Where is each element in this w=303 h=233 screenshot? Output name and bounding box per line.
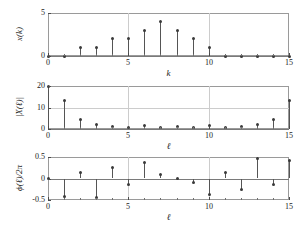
x-axis-minor-tick	[241, 198, 242, 200]
x-axis-minor-tick	[273, 198, 274, 200]
x-axis-minor-tick	[177, 54, 178, 56]
x-axis-major-tick	[128, 126, 129, 129]
x-axis-minor-tick	[64, 54, 65, 56]
stem-line	[144, 30, 145, 56]
stem-marker	[143, 29, 146, 32]
x-axis-minor-tick	[257, 198, 258, 200]
y-axis-tick-label: 20	[14, 81, 45, 90]
x-axis-major-tick	[289, 53, 290, 56]
x-axis-minor-tick	[257, 54, 258, 56]
y-axis-tick-label: 0	[14, 51, 45, 60]
panel3-x-axis-label: ℓ	[149, 212, 189, 222]
y-axis-major-tick	[48, 13, 51, 14]
baseline-zero	[48, 56, 289, 57]
x-axis-minor-tick	[112, 54, 113, 56]
y-axis-tick-label: -0.5	[14, 195, 45, 204]
x-axis-minor-tick	[112, 198, 113, 200]
x-axis-minor-tick	[225, 127, 226, 129]
x-axis-minor-tick	[177, 198, 178, 200]
x-axis-major-tick	[209, 197, 210, 200]
stem-marker	[79, 46, 82, 49]
x-axis-minor-tick	[193, 54, 194, 56]
stem-marker	[95, 123, 98, 126]
stem-marker	[272, 118, 275, 121]
x-axis-minor-tick	[273, 54, 274, 56]
x-axis-tick-label: 10	[199, 131, 219, 140]
x-axis-major-tick	[289, 197, 290, 200]
x-axis-tick-label: 10	[199, 202, 219, 211]
x-axis-major-tick	[209, 126, 210, 129]
x-axis-minor-tick	[80, 198, 81, 200]
x-axis-minor-tick	[225, 54, 226, 56]
x-axis-minor-tick	[177, 127, 178, 129]
x-axis-tick-label: 10	[199, 58, 219, 67]
stem-marker	[143, 161, 146, 164]
x-axis-minor-tick	[80, 54, 81, 56]
baseline-zero	[48, 179, 289, 180]
stem-marker	[127, 183, 130, 186]
stem-marker	[79, 118, 82, 121]
x-axis-minor-tick	[160, 198, 161, 200]
x-axis-tick-label: 15	[279, 202, 299, 211]
y-axis-major-tick	[48, 56, 51, 57]
baseline-zero	[48, 129, 289, 130]
x-axis-tick-label: 15	[279, 131, 299, 140]
x-axis-minor-tick	[193, 198, 194, 200]
x-axis-minor-tick	[273, 127, 274, 129]
y-axis-major-tick	[48, 179, 51, 180]
stem-marker	[208, 46, 211, 49]
y-axis-major-tick	[48, 129, 51, 130]
stem-line	[112, 167, 113, 178]
y-axis-tick-label: 0.5	[14, 152, 45, 161]
x-axis-tick-label: 5	[118, 131, 138, 140]
panel1-x-axis-label: k	[149, 68, 189, 78]
stem-line	[289, 160, 290, 178]
y-axis-major-tick	[48, 108, 51, 109]
x-axis-minor-tick	[96, 54, 97, 56]
x-axis-major-tick	[209, 53, 210, 56]
stem-marker	[176, 177, 179, 180]
x-axis-minor-tick	[64, 198, 65, 200]
stem-line	[289, 101, 290, 129]
stem-marker	[159, 173, 162, 176]
stem-marker	[288, 99, 291, 102]
panel2-x-axis-label: ℓ	[149, 141, 189, 151]
stem-marker	[192, 181, 195, 184]
stem-marker	[95, 46, 98, 49]
stem-marker	[111, 166, 114, 169]
x-axis-minor-tick	[241, 54, 242, 56]
panel1-axes-frame	[48, 13, 289, 56]
stem-line	[64, 179, 65, 197]
x-axis-tick-label: 15	[279, 58, 299, 67]
stem-line	[257, 159, 258, 179]
panel1-y-axis-label: x(k)	[14, 15, 24, 53]
stem-marker	[176, 29, 179, 32]
x-axis-major-tick	[128, 53, 129, 56]
y-axis-tick-label: 0	[14, 124, 45, 133]
x-axis-tick-label: 5	[118, 58, 138, 67]
stem-line	[177, 30, 178, 56]
x-axis-minor-tick	[144, 198, 145, 200]
x-axis-minor-tick	[160, 127, 161, 129]
stem-marker	[288, 159, 291, 162]
x-axis-major-tick	[128, 197, 129, 200]
x-axis-minor-tick	[64, 127, 65, 129]
y-axis-tick-label: 5	[14, 8, 45, 17]
x-axis-major-tick	[289, 126, 290, 129]
y-axis-major-tick	[48, 86, 51, 87]
stem-line	[96, 179, 97, 198]
x-axis-minor-tick	[80, 127, 81, 129]
y-axis-tick-label: 0	[14, 174, 45, 183]
stem-line	[160, 22, 161, 56]
stem-line	[144, 162, 145, 178]
x-axis-minor-tick	[241, 127, 242, 129]
gridline-horizontal	[48, 108, 289, 109]
x-axis-minor-tick	[144, 54, 145, 56]
x-axis-minor-tick	[193, 127, 194, 129]
x-axis-minor-tick	[96, 198, 97, 200]
x-axis-minor-tick	[112, 127, 113, 129]
x-axis-minor-tick	[225, 198, 226, 200]
stem-line	[64, 101, 65, 129]
x-axis-minor-tick	[144, 127, 145, 129]
stem-marker	[256, 123, 259, 126]
